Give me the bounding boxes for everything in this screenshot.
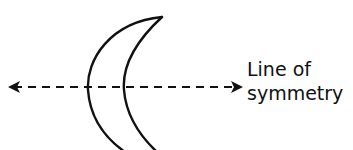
right-arrowhead-icon xyxy=(231,81,243,93)
line-of-symmetry xyxy=(8,81,243,93)
line-of-symmetry-label: Line of symmetry xyxy=(247,57,343,105)
crescent-inner-arc xyxy=(124,17,162,150)
label-line-2: symmetry xyxy=(247,81,343,105)
label-line-1: Line of xyxy=(247,57,343,81)
crescent-shape xyxy=(88,17,162,150)
